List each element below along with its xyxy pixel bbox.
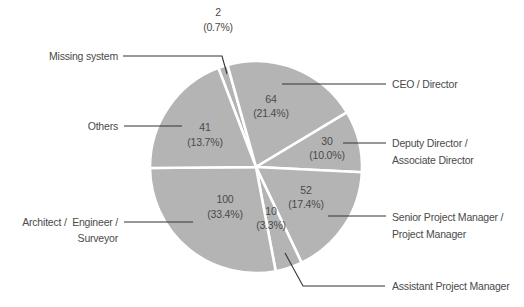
label-deputy-director-line2: Associate Director <box>392 154 474 166</box>
value-senior-project-manager: 52 <box>300 184 312 196</box>
percent-architect: (33.4%) <box>207 208 242 220</box>
value-missing-system: 2 <box>215 6 221 18</box>
value-architect: 100 <box>217 193 234 205</box>
percent-ceo-director: (21.4%) <box>253 107 288 119</box>
percent-deputy-director: (10.0%) <box>309 149 344 161</box>
label-missing-system: Missing system <box>49 50 118 62</box>
value-assistant-project-manager: 10 <box>265 205 277 217</box>
percent-missing-system: (0.7%) <box>203 21 233 33</box>
value-others: 41 <box>199 121 211 133</box>
label-deputy-director-line1: Deputy Director / <box>392 137 468 149</box>
pie-chart: 2 (0.7%) 64 (21.4%) 30 (10.0%) 52 (17.4%… <box>0 0 524 307</box>
percent-senior-project-manager: (17.4%) <box>288 198 323 210</box>
value-ceo-director: 64 <box>265 93 277 105</box>
label-ceo-director: CEO / Director <box>392 78 458 90</box>
percent-assistant-project-manager: (3.3%) <box>256 219 286 231</box>
label-assistant-project-manager: Assistant Project Manager <box>392 280 510 292</box>
label-senior-pm-line2: Project Manager <box>392 228 467 240</box>
label-senior-pm-line1: Senior Project Manager / <box>392 211 504 223</box>
pie-slices <box>150 61 362 273</box>
label-architect-line1: Architect / Engineer / <box>22 216 118 228</box>
label-others: Others <box>88 120 118 132</box>
label-architect-line2: Surveyor <box>78 232 119 244</box>
percent-others: (13.7%) <box>187 136 222 148</box>
value-deputy-director: 30 <box>321 135 333 147</box>
